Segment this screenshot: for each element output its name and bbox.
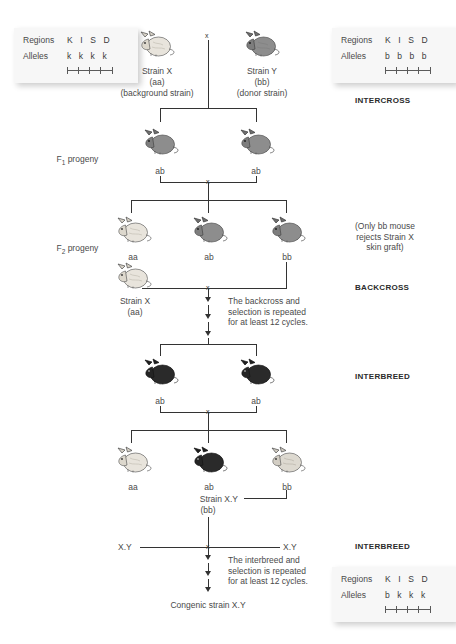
backcross-note: The backcross and selection is repeated … — [228, 296, 308, 328]
stage-label-interbreed: INTERBREED — [355, 372, 410, 383]
backcross-parent-name: Strain X — [103, 296, 167, 307]
f2-rest: progeny — [65, 243, 98, 253]
f2-genotype-1: ab — [179, 252, 239, 263]
mouse-strain-x — [134, 30, 178, 60]
chromosome-bar-icon — [67, 67, 113, 74]
final-genotype-0: aa — [103, 482, 163, 493]
strain-x-genotype: (aa) — [122, 77, 192, 88]
strain-y-role: (donor strain) — [222, 88, 302, 99]
stage-label-interbreed-2: INTERBREED — [355, 542, 410, 553]
f2-genotype-0: aa — [103, 252, 163, 263]
mouse-f2-1 — [187, 216, 231, 246]
regions-value: K I S D — [67, 35, 112, 45]
regions-value: K I S D — [385, 574, 430, 584]
final-genotype-2: bb — [257, 482, 317, 493]
backcross-parent-genotype: (aa) — [103, 307, 167, 318]
generation-label-f1: F1 progeny — [47, 143, 98, 178]
regions-row: Regions K I S D — [341, 574, 447, 584]
mouse-final-1 — [187, 446, 231, 476]
interbreed-genotype-0: ab — [130, 396, 190, 407]
alleles-value: b b b b — [385, 51, 429, 61]
regions-label: Regions — [23, 35, 67, 45]
alleles-row: Alleles b b b b — [341, 51, 447, 61]
mouse-final-0 — [111, 446, 155, 476]
alleles-value: b k k k — [385, 590, 428, 600]
final-cross-left: X.Y — [118, 542, 132, 553]
f1-genotype-0: ab — [130, 166, 190, 177]
f1-rest: progeny — [65, 154, 98, 164]
mouse-interbreed-0 — [138, 358, 182, 388]
final-genotype-1: ab — [179, 482, 239, 493]
final-cross-right: X.Y — [283, 542, 297, 553]
alleles-label: Alleles — [23, 51, 67, 61]
chromosome-bar-icon — [385, 67, 431, 74]
allele-box-strain-y: Regions K I S D Alleles b b b b — [332, 28, 456, 83]
mouse-f1-0 — [138, 128, 182, 158]
selected-strain-name: Strain X.Y — [160, 494, 238, 505]
strain-x-name: Strain X — [122, 66, 192, 77]
mouse-f2-0 — [111, 216, 155, 246]
mouse-strain-y — [239, 30, 283, 60]
stage-label-backcross: BACKCROSS — [355, 283, 409, 294]
selected-strain-genotype: (bb) — [178, 505, 238, 516]
generation-label-f2: F2 progeny — [47, 232, 98, 267]
regions-value: K I S D — [385, 35, 430, 45]
mouse-f1-1 — [234, 128, 278, 158]
allele-box-congenic: Regions K I S D Alleles b k k k — [332, 567, 456, 622]
allele-box-strain-x: Regions K I S D Alleles k k k k — [14, 28, 138, 83]
alleles-value: k k k k — [67, 51, 109, 61]
alleles-row: Alleles k k k k — [23, 51, 129, 61]
mouse-interbreed-1 — [234, 358, 278, 388]
regions-label: Regions — [341, 574, 385, 584]
regions-label: Regions — [341, 35, 385, 45]
alleles-label: Alleles — [341, 590, 385, 600]
alleles-label: Alleles — [341, 51, 385, 61]
cross-symbol-parents: x — [205, 32, 209, 39]
strain-x-role: (background strain) — [107, 88, 207, 99]
regions-row: Regions K I S D — [341, 35, 447, 45]
strain-y-name: Strain Y — [227, 66, 297, 77]
interbreed-note: The interbreed and selection is repeated… — [228, 555, 308, 587]
alleles-row: Alleles b k k k — [341, 590, 447, 600]
mouse-f2-2 — [265, 216, 309, 246]
f2-genotype-2: bb — [257, 252, 317, 263]
interbreed-genotype-1: ab — [226, 396, 286, 407]
stage-label-intercross: INTERCROSS — [355, 96, 410, 107]
result-label: Congenic strain X.Y — [138, 600, 278, 611]
regions-row: Regions K I S D — [23, 35, 129, 45]
mouse-final-2 — [265, 446, 309, 476]
f2-note: (Only bb mouse rejects Strain X skin gra… — [330, 221, 440, 253]
chromosome-bar-icon — [385, 606, 431, 613]
f1-genotype-1: ab — [226, 166, 286, 177]
strain-y-genotype: (bb) — [227, 77, 297, 88]
